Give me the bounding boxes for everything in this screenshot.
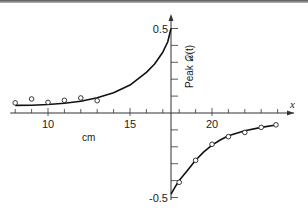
data-point [274, 123, 279, 128]
data-point [46, 100, 51, 105]
data-point [13, 101, 18, 106]
theory-left-curve [15, 29, 171, 106]
data-point [259, 125, 264, 130]
x-tick-label: 10 [42, 118, 54, 130]
x-unit-label: cm [82, 132, 95, 143]
data-point [226, 134, 231, 139]
data-point [95, 98, 100, 103]
data-point [29, 97, 34, 102]
data-point [62, 98, 67, 103]
chart: 1015200.5-0.5 Peak 𝒟(t) x cm [0, 0, 308, 216]
y-tick-label: -0.5 [149, 192, 168, 204]
data-point [210, 142, 215, 147]
data-points [13, 96, 278, 185]
x-axis-label: x [289, 98, 295, 110]
y-tick-label: 0.5 [153, 23, 168, 35]
data-point [177, 180, 182, 185]
x-tick-label: 15 [124, 118, 136, 130]
y-axis-label: Peak 𝒟(t) [184, 45, 195, 88]
data-point [243, 130, 248, 135]
axes: 1015200.5-0.5 [10, 14, 294, 204]
data-point [193, 158, 198, 163]
data-point [79, 96, 84, 101]
theory-right-curve [171, 125, 278, 194]
x-tick-label: 20 [206, 118, 218, 130]
x-axis-arrow [287, 111, 294, 116]
y-axis-arrow [169, 14, 174, 21]
